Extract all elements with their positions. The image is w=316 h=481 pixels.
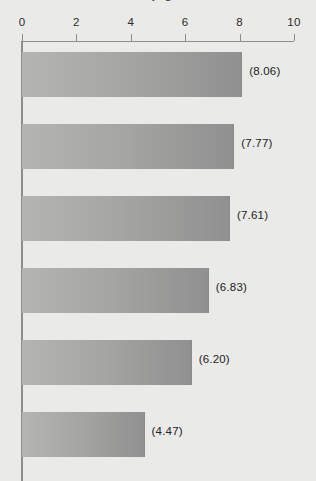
x-axis-tick-label: 6 [165, 16, 205, 28]
x-axis-tick-mark [240, 34, 241, 41]
bar-value-label: (7.61) [237, 209, 268, 221]
bar-row: (7.77) [0, 124, 316, 169]
bar-row: (6.20) [0, 340, 316, 385]
bar[interactable] [22, 196, 230, 241]
chart-page: llp g 0246810 (8.06)(7.77)(7.61)(6.83)(6… [0, 0, 316, 481]
bar[interactable] [22, 412, 145, 457]
bar-row: (6.83) [0, 268, 316, 313]
x-axis-tick-mark [294, 34, 295, 41]
bar-value-label: (7.77) [241, 137, 272, 149]
x-axis: 0246810 [0, 12, 316, 44]
bar-value-label: (8.06) [249, 65, 280, 77]
bar-value-label: (4.47) [152, 425, 183, 437]
bar-row: (7.61) [0, 196, 316, 241]
cropped-title-fragment: llp g [0, 0, 316, 9]
bar-value-label: (6.20) [199, 353, 230, 365]
x-axis-tick-label: 8 [220, 16, 260, 28]
x-axis-line [22, 41, 294, 42]
bar-row: (4.47) [0, 412, 316, 457]
bar-row: (8.06) [0, 52, 316, 97]
bar-value-label: (6.83) [216, 281, 247, 293]
plot-area: (8.06)(7.77)(7.61)(6.83)(6.20)(4.47) [0, 44, 316, 481]
x-axis-tick-mark [131, 34, 132, 41]
x-axis-tick-label: 10 [274, 16, 314, 28]
x-axis-tick-mark [185, 34, 186, 41]
bar[interactable] [22, 340, 192, 385]
x-axis-tick-label: 2 [56, 16, 96, 28]
x-axis-tick-mark [76, 34, 77, 41]
x-axis-tick-mark [22, 34, 23, 41]
x-axis-tick-label: 0 [2, 16, 42, 28]
bar[interactable] [22, 268, 209, 313]
x-axis-tick-label: 4 [111, 16, 151, 28]
bar[interactable] [22, 52, 242, 97]
bar[interactable] [22, 124, 234, 169]
